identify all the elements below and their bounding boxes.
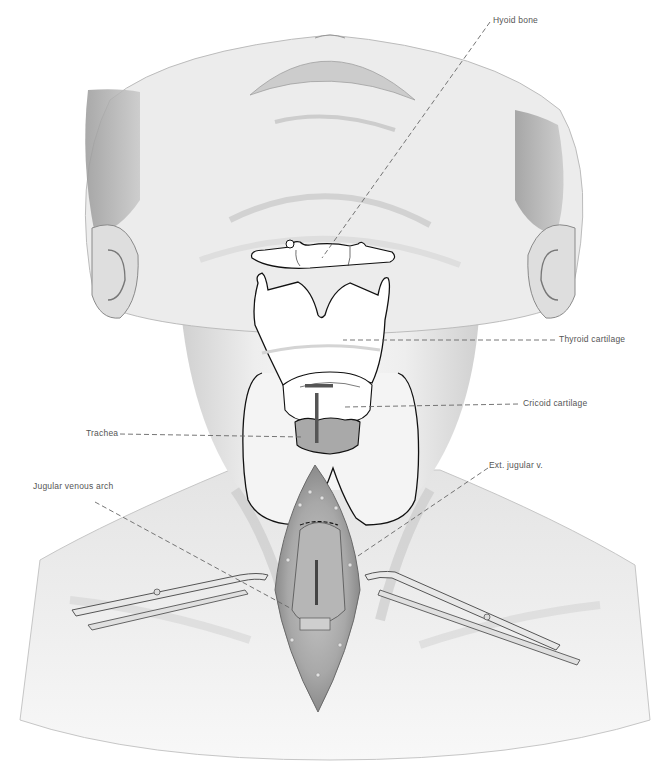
label-ext-jugular-v: Ext. jugular v. — [489, 460, 543, 470]
anatomy-illustration — [0, 0, 667, 782]
label-jugular-venous-arch: Jugular venous arch — [33, 481, 113, 491]
label-thyroid-cartilage: Thyroid cartilage — [559, 334, 625, 344]
head — [85, 35, 582, 335]
label-hyoid-bone: Hyoid bone — [493, 15, 538, 25]
label-cricoid-cartilage: Cricoid cartilage — [523, 398, 587, 408]
cricoid-cartilage — [283, 372, 372, 422]
label-trachea: Trachea — [86, 428, 118, 438]
